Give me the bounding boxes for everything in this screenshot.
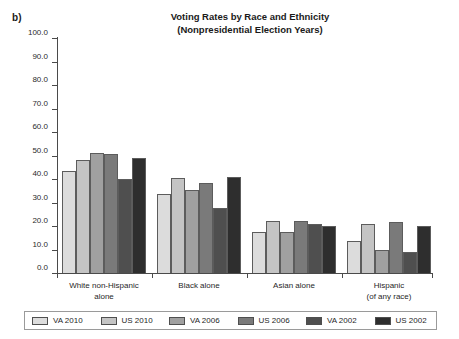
bar-group	[157, 38, 241, 273]
category-label-line: alone	[54, 292, 154, 303]
x-axis-category-label: Hispanic(of any race)	[339, 281, 439, 302]
bar	[132, 158, 146, 273]
legend-label: VA 2010	[53, 316, 83, 325]
x-axis-tick	[432, 273, 433, 278]
y-axis-tick-label: 100.0	[0, 28, 48, 37]
legend-item[interactable]: US 2002	[368, 316, 437, 325]
chart-title: Voting Rates by Race and Ethnicity (Nonp…	[100, 11, 400, 36]
legend-swatch	[375, 317, 391, 325]
bar	[294, 221, 308, 273]
category-label-line: Black alone	[149, 281, 249, 292]
y-axis-tick-label: 80.0	[0, 75, 48, 84]
bar	[252, 232, 266, 273]
category-label-line: Asian alone	[244, 281, 344, 292]
bar	[104, 154, 118, 273]
legend-label: VA 2002	[327, 316, 357, 325]
legend-item[interactable]: VA 2006	[162, 316, 231, 325]
legend-label: US 2002	[396, 316, 427, 325]
legend-swatch	[101, 317, 117, 325]
panel-label: b)	[12, 12, 22, 23]
legend-swatch	[169, 317, 185, 325]
legend-label: US 2006	[259, 316, 290, 325]
bar	[171, 178, 185, 273]
legend-item[interactable]: VA 2002	[299, 316, 368, 325]
bar	[62, 171, 76, 273]
category-label-line: (of any race)	[339, 292, 439, 303]
x-axis-tick	[152, 273, 153, 278]
bar	[417, 226, 431, 273]
x-axis-line	[57, 273, 433, 274]
y-axis-tick-label: 0.0	[0, 263, 48, 272]
x-axis-category-label: Asian alone	[244, 281, 344, 292]
plot-area	[57, 38, 432, 273]
bar-group	[62, 38, 146, 273]
legend-swatch	[238, 317, 254, 325]
bar	[157, 194, 171, 273]
bar-group	[347, 38, 431, 273]
x-axis-category-label: White non-Hispanicalone	[54, 281, 154, 302]
x-axis-category-label: Black alone	[149, 281, 249, 292]
bar	[90, 153, 104, 273]
bar	[227, 177, 241, 273]
y-axis-tick-label: 20.0	[0, 216, 48, 225]
legend-item[interactable]: VA 2010	[25, 316, 94, 325]
legend-item[interactable]: US 2010	[94, 316, 163, 325]
bar	[266, 221, 280, 273]
bar-group	[252, 38, 336, 273]
bar	[322, 226, 336, 273]
bar	[347, 241, 361, 273]
chart-title-line1: Voting Rates by Race and Ethnicity	[100, 11, 400, 24]
legend-item[interactable]: US 2006	[231, 316, 300, 325]
bar	[375, 250, 389, 274]
bar	[403, 252, 417, 273]
legend-swatch	[306, 317, 322, 325]
legend-swatch	[32, 317, 48, 325]
y-axis-tick-label: 10.0	[0, 240, 48, 249]
legend-label: VA 2006	[190, 316, 220, 325]
y-axis-tick-label: 30.0	[0, 193, 48, 202]
bar	[213, 208, 227, 273]
bar	[185, 190, 199, 273]
y-axis-tick-label: 70.0	[0, 99, 48, 108]
chart-legend: VA 2010US 2010VA 2006US 2006VA 2002US 20…	[24, 311, 437, 330]
bar	[280, 232, 294, 273]
bar	[199, 183, 213, 273]
bar	[389, 222, 403, 273]
legend-label: US 2010	[122, 316, 153, 325]
bar	[118, 179, 132, 273]
y-axis-tick-label: 90.0	[0, 52, 48, 61]
y-axis-tick-label: 50.0	[0, 146, 48, 155]
y-axis-tick-label: 40.0	[0, 169, 48, 178]
x-axis-tick	[342, 273, 343, 278]
category-label-line: Hispanic	[339, 281, 439, 292]
chart-title-line2: (Nonpresidential Election Years)	[100, 24, 400, 37]
x-axis-tick	[247, 273, 248, 278]
bar	[308, 224, 322, 273]
y-axis-tick-label: 60.0	[0, 122, 48, 131]
bar	[76, 160, 90, 273]
bar	[361, 224, 375, 273]
category-label-line: White non-Hispanic	[54, 281, 154, 292]
x-axis-tick	[57, 273, 58, 278]
